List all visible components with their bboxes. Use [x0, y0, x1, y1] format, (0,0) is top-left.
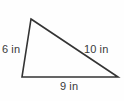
- geometry-figure: 6 in 10 in 9 in: [0, 0, 124, 101]
- side-label-base: 9 in: [60, 80, 78, 92]
- side-label-right: 10 in: [84, 43, 108, 55]
- side-label-left: 6 in: [2, 43, 20, 55]
